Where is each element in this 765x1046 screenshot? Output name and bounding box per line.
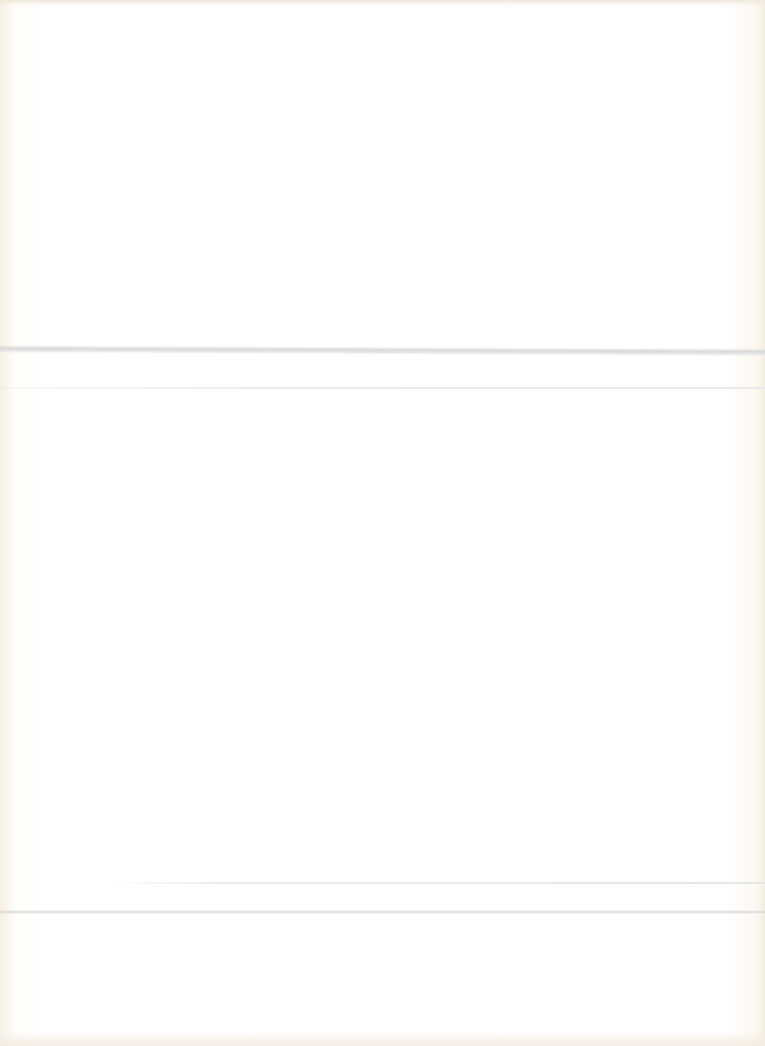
page-bottom-edge: [0, 1032, 765, 1046]
fold-line-upper: [0, 345, 765, 356]
blank-document-page: [0, 0, 765, 1046]
page-top-edge: [0, 0, 765, 6]
faint-line-upper: [0, 387, 765, 389]
fold-line-lower: [0, 910, 765, 914]
faint-line-lower: [0, 882, 765, 884]
